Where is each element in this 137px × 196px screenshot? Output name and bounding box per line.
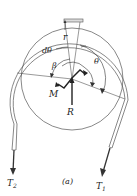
label-T1: T1 xyxy=(96,181,106,192)
label-T2-sub: 2 xyxy=(12,182,17,189)
label-R: R xyxy=(66,107,74,117)
radius-left xyxy=(17,73,72,79)
label-T2: T2 xyxy=(7,178,17,189)
label-T1-sub: 1 xyxy=(102,185,106,192)
t1-arrow-shaft xyxy=(103,148,110,172)
t2-arrowhead xyxy=(10,168,16,175)
label-dtheta: dθ xyxy=(42,46,52,55)
label-theta: θ xyxy=(94,57,99,66)
figure-caption: (a) xyxy=(62,177,73,186)
belt-left-inner xyxy=(16,124,17,150)
belt-left-outer xyxy=(12,124,14,150)
theta-arc-inner xyxy=(84,67,93,85)
belt-element xyxy=(64,19,83,22)
label-M: M xyxy=(48,89,59,99)
label-beta: β xyxy=(51,61,57,70)
radius-element-left xyxy=(65,22,72,79)
belt-right-inner xyxy=(109,99,125,147)
t1-arrowhead xyxy=(100,168,106,177)
radius-right xyxy=(72,79,125,99)
inner-arc xyxy=(62,62,84,67)
moment-arrowhead xyxy=(83,70,88,76)
label-r: r xyxy=(63,32,68,42)
belt-friction-diagram: r dθ β θ M R T2 T1 (a) xyxy=(0,0,137,196)
